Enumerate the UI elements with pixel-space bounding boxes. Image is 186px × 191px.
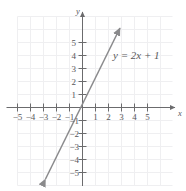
y-tick-label-3: 3 — [72, 64, 77, 74]
x-tick-label--5: −5 — [13, 112, 23, 122]
equation-annotation: y = 2x + 1 — [112, 49, 160, 61]
y-tick-label-5: 5 — [72, 38, 77, 48]
y-tick-label--4: −4 — [69, 155, 79, 165]
x-tick-label-1: 1 — [93, 112, 98, 122]
x-tick-label-2: 2 — [106, 112, 111, 122]
y-tick-label-2: 2 — [72, 77, 77, 87]
x-tick-label-4: 4 — [132, 112, 137, 122]
x-tick-label-3: 3 — [119, 112, 124, 122]
x-tick-label--3: −3 — [39, 112, 49, 122]
y-tick-label--3: −3 — [69, 142, 79, 152]
x-tick-label--2: −2 — [52, 112, 62, 122]
y-axis-label: y — [75, 6, 80, 16]
graph-canvas: −5 −4 −3 −2 −1 1 2 3 4 5 5 4 3 2 1 −1 −2… — [0, 0, 186, 191]
y-tick-label--1: −1 — [69, 116, 79, 126]
x-tick-label--4: −4 — [26, 112, 36, 122]
grid-lines — [18, 17, 173, 186]
x-axis-label: x — [177, 108, 182, 118]
y-tick-label--5: −5 — [69, 168, 79, 178]
y-tick-label-4: 4 — [72, 51, 77, 61]
coordinate-plane-figure: −5 −4 −3 −2 −1 1 2 3 4 5 5 4 3 2 1 −1 −2… — [0, 0, 186, 191]
y-tick-label--2: −2 — [69, 129, 79, 139]
x-tick-label-5: 5 — [145, 112, 150, 122]
y-tick-label-1: 1 — [72, 90, 77, 100]
